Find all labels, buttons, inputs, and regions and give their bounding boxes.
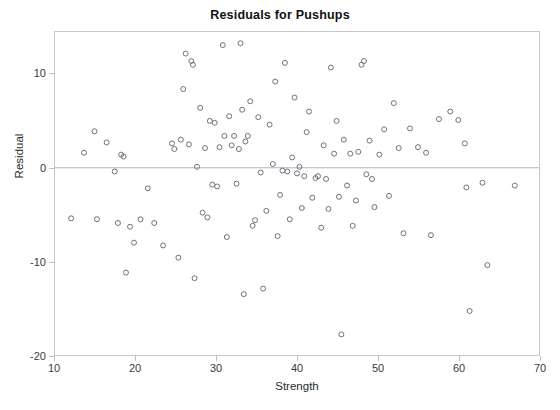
data-point	[278, 192, 283, 197]
data-point	[336, 194, 341, 199]
data-point	[485, 263, 490, 268]
data-point	[348, 151, 353, 156]
data-point	[181, 87, 186, 92]
y-tick-mark	[49, 73, 54, 74]
scatter-canvas	[55, 32, 539, 355]
x-tick-label: 30	[210, 362, 222, 374]
x-tick-mark	[216, 356, 217, 361]
data-point	[112, 169, 117, 174]
data-point	[205, 215, 210, 220]
data-point	[436, 117, 441, 122]
x-tick-mark	[540, 356, 541, 361]
data-point	[256, 115, 261, 120]
data-point	[203, 146, 208, 151]
data-point	[123, 270, 128, 275]
data-point	[307, 109, 312, 114]
data-point	[326, 206, 331, 211]
data-point	[194, 164, 199, 169]
data-point	[172, 147, 177, 152]
data-point	[290, 155, 295, 160]
data-point	[82, 150, 87, 155]
data-point	[464, 185, 469, 190]
data-point	[382, 127, 387, 132]
x-tick-label: 50	[372, 362, 384, 374]
data-point	[145, 186, 150, 191]
data-point	[217, 145, 222, 150]
y-axis-title: Residual	[13, 111, 25, 201]
data-point	[267, 122, 272, 127]
data-point	[212, 120, 217, 125]
data-point	[372, 205, 377, 210]
x-tick-label: 70	[534, 362, 546, 374]
data-point	[304, 130, 309, 135]
data-point	[302, 174, 307, 179]
page-title: Residuals for Pushups	[0, 8, 560, 22]
data-point	[310, 195, 315, 200]
data-point	[169, 141, 174, 146]
data-point	[324, 177, 329, 182]
data-point	[183, 51, 188, 56]
data-point	[128, 224, 133, 229]
data-point	[275, 234, 280, 239]
data-point	[258, 170, 263, 175]
data-point	[512, 183, 517, 188]
data-point	[456, 118, 461, 123]
data-point	[428, 233, 433, 238]
data-point	[115, 221, 120, 226]
data-point	[132, 240, 137, 245]
data-point	[273, 79, 278, 84]
x-tick-label: 10	[48, 362, 60, 374]
data-point	[341, 137, 346, 142]
data-point	[367, 138, 372, 143]
data-point	[328, 65, 333, 70]
x-axis-title: Strength	[54, 380, 540, 392]
data-point	[319, 225, 324, 230]
data-point	[396, 146, 401, 151]
data-point	[282, 60, 287, 65]
y-tick-mark	[49, 356, 54, 357]
data-point	[92, 129, 97, 134]
data-point	[370, 177, 375, 182]
y-tick-mark	[49, 262, 54, 263]
data-point	[292, 95, 297, 100]
data-point	[345, 183, 350, 188]
data-point	[377, 152, 382, 157]
x-tick-mark	[297, 356, 298, 361]
residual-plot-figure: Residuals for Pushups 10203040506070 -20…	[0, 0, 560, 410]
y-tick-label: 0	[40, 162, 46, 174]
data-point	[69, 216, 74, 221]
x-tick-mark	[378, 356, 379, 361]
x-tick-mark	[135, 356, 136, 361]
data-point	[416, 145, 421, 150]
data-point	[364, 172, 369, 177]
data-point	[299, 206, 304, 211]
data-point	[424, 150, 429, 155]
x-tick-label: 20	[129, 362, 141, 374]
data-point	[339, 332, 344, 337]
data-point	[356, 149, 361, 154]
data-point	[467, 309, 472, 314]
data-point	[264, 208, 269, 213]
data-point	[241, 292, 246, 297]
x-tick-mark	[459, 356, 460, 361]
data-point	[240, 107, 245, 112]
data-point	[480, 180, 485, 185]
y-tick-mark	[49, 168, 54, 169]
data-point	[270, 162, 275, 167]
data-point	[285, 169, 290, 174]
data-point	[200, 210, 205, 215]
data-point	[215, 184, 220, 189]
data-point	[207, 118, 212, 123]
data-points-group	[69, 41, 518, 337]
data-point	[250, 223, 255, 228]
data-point	[321, 143, 326, 148]
data-point	[448, 109, 453, 114]
y-tick-label: -20	[30, 350, 46, 362]
data-point	[287, 217, 292, 222]
x-tick-label: 40	[291, 362, 303, 374]
data-point	[332, 151, 337, 156]
data-point	[176, 255, 181, 260]
data-point	[94, 217, 99, 222]
data-point	[104, 140, 109, 145]
data-point	[280, 168, 285, 173]
